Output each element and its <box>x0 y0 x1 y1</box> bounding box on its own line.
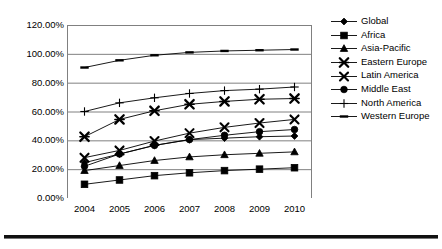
x-axis-tick-label: 2004 <box>65 204 105 214</box>
data-point-marker <box>186 169 193 176</box>
data-point-marker <box>81 163 88 170</box>
plus-marker-icon <box>330 96 358 109</box>
x-axis-tick-label: 2006 <box>135 204 175 214</box>
data-point-marker <box>256 166 263 173</box>
y-axis-tick-label: 40.00% <box>2 135 64 145</box>
legend-item-asia-pacific[interactable]: Asia-Pacific <box>330 41 442 55</box>
legend-label: Eastern Europe <box>358 57 427 67</box>
data-point-marker <box>290 94 299 102</box>
x-axis: 2004200520062007200820092010 <box>67 204 312 222</box>
y-axis-tick-label: 100.00% <box>2 49 64 59</box>
legend-item-latin-america[interactable]: Latin America <box>330 68 442 82</box>
legend-label: Latin America <box>358 70 419 80</box>
data-point-marker <box>221 132 228 139</box>
legend-marker <box>341 32 348 39</box>
series-western-europe <box>80 50 298 68</box>
data-point-marker <box>291 133 298 140</box>
data-point-marker <box>255 85 263 93</box>
data-point-marker <box>80 133 89 141</box>
data-point-marker <box>81 181 88 188</box>
data-point-marker <box>291 164 298 171</box>
data-point-marker <box>185 89 193 97</box>
legend-item-africa[interactable]: Africa <box>330 28 442 42</box>
circle-marker-icon <box>330 82 358 95</box>
diamond-marker-icon <box>330 14 358 27</box>
y-axis-tick-label: 0.00% <box>2 193 64 203</box>
data-point-marker <box>256 128 263 135</box>
data-point-marker <box>116 151 123 158</box>
legend-marker <box>339 58 348 66</box>
legend-marker <box>341 86 348 93</box>
chart-legend: GlobalAfricaAsia-PacificEastern EuropeLa… <box>330 14 442 123</box>
data-point-marker <box>151 142 158 149</box>
data-point-marker <box>221 167 228 174</box>
x-axis-tick-label: 2009 <box>240 204 280 214</box>
legend-item-global[interactable]: Global <box>330 14 442 28</box>
bottom-divider-shadow <box>4 238 438 239</box>
data-point-marker <box>290 83 298 91</box>
legend-item-middle-east[interactable]: Middle East <box>330 82 442 96</box>
y-axis: 0.00%20.00%40.00%60.00%80.00%100.00%120.… <box>0 0 64 235</box>
square-marker-icon <box>330 28 358 41</box>
data-point-marker <box>115 99 123 107</box>
legend-item-north-america[interactable]: North America <box>330 96 442 110</box>
y-axis-tick-label: 80.00% <box>2 78 64 88</box>
cross-marker-icon <box>330 69 358 82</box>
data-point-marker <box>116 177 123 184</box>
asterisk-marker-icon <box>330 55 358 68</box>
data-point-marker <box>150 107 159 115</box>
data-point-marker <box>291 126 298 133</box>
y-axis-tick-label: 120.00% <box>2 20 64 30</box>
data-point-marker <box>185 100 194 108</box>
x-axis-tick-label: 2005 <box>100 204 140 214</box>
legend-label: Middle East <box>358 84 411 94</box>
data-point-marker <box>220 86 228 94</box>
legend-item-western-europe[interactable]: Western Europe <box>330 109 442 123</box>
x-axis-tick-label: 2008 <box>205 204 245 214</box>
data-point-marker <box>150 94 158 102</box>
legend-label: North America <box>358 98 421 108</box>
line-chart: 0.00%20.00%40.00%60.00%80.00%100.00%120.… <box>0 0 442 235</box>
y-axis-tick-label: 20.00% <box>2 164 64 174</box>
plot-area <box>67 25 312 198</box>
data-point-marker <box>115 115 124 123</box>
dash-marker-icon <box>330 109 358 122</box>
y-axis-tick-label: 60.00% <box>2 107 64 117</box>
legend-item-eastern-europe[interactable]: Eastern Europe <box>330 55 442 69</box>
data-point-marker <box>255 95 264 103</box>
x-axis-tick-label: 2007 <box>170 204 210 214</box>
legend-label: Africa <box>358 30 385 40</box>
plot-svg <box>67 25 312 198</box>
data-point-marker <box>220 97 229 105</box>
legend-marker <box>341 18 348 25</box>
legend-label: Asia-Pacific <box>358 43 411 53</box>
chart-screenshot: 0.00%20.00%40.00%60.00%80.00%100.00%120.… <box>0 0 442 249</box>
legend-label: Western Europe <box>358 111 429 121</box>
data-point-marker <box>186 136 193 143</box>
x-axis-tick-label: 2010 <box>275 204 315 214</box>
data-point-marker <box>291 148 298 155</box>
legend-marker <box>340 99 348 107</box>
triangle-marker-icon <box>330 41 358 54</box>
data-point-marker <box>80 107 88 115</box>
legend-label: Global <box>358 16 388 26</box>
data-point-marker <box>151 172 158 179</box>
series-africa <box>81 164 298 187</box>
